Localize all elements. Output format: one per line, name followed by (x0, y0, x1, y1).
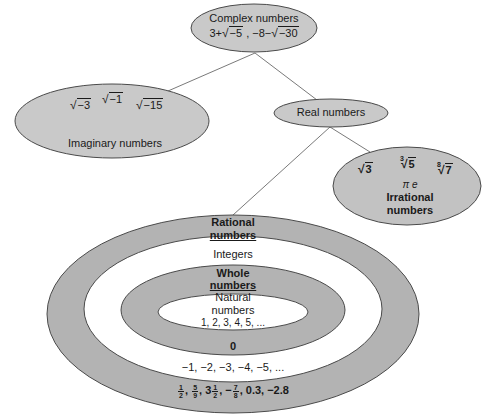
natural-numbers-title-line2: numbers (193, 304, 273, 317)
imaginary-example-3: √−15 (136, 99, 163, 113)
irrational-example-1: √3 (358, 163, 373, 177)
fraction-denominator: 9 (193, 392, 197, 399)
connector-complex-real (255, 53, 317, 100)
imaginary-example-2-radicand: −1 (109, 92, 124, 105)
fraction: 12 (178, 384, 184, 399)
radical-sign-icon: √−3 (70, 99, 91, 113)
negative-sign: − (225, 384, 231, 396)
radical-sign-icon: √−30 (271, 27, 298, 41)
whole-numbers-title-line1: Whole (193, 267, 273, 280)
complex-numbers-title: Complex numbers (204, 12, 304, 25)
irrational-numbers-title-line1: Irrational (370, 191, 450, 204)
complex-example-2-prefix: −8− (252, 27, 271, 39)
radical-sign-icon: √−5 (222, 27, 243, 41)
real-numbers-title: Real numbers (281, 106, 381, 119)
rational-numbers-examples: 12, 59, 312, −78, 0.3, −2.8 (163, 384, 303, 399)
rational-numbers-title-line1: Rational (193, 216, 273, 229)
fraction: 59 (192, 384, 198, 399)
fraction-denominator: 2 (213, 392, 217, 399)
natural-numbers-examples: 1, 2, 3, 4, 5, ... (183, 317, 283, 329)
irrational-example-2: 3√5 (400, 155, 416, 172)
integers-examples: −1, −2, −3, −4, −5, ... (168, 361, 298, 374)
fraction-numerator: 1 (178, 384, 184, 392)
irrational-example-1-radicand: 3 (365, 162, 373, 175)
imaginary-example-3-radicand: −15 (143, 98, 164, 111)
natural-numbers-title-line1: Natural (193, 291, 273, 304)
fraction: 12 (212, 384, 218, 399)
fraction-numerator: 1 (212, 384, 218, 392)
connector-real-irrational (330, 127, 370, 152)
fraction-denominator: 8 (234, 392, 238, 399)
irrational-example-2-radicand: 5 (408, 157, 416, 170)
connector-real-rational (233, 127, 330, 215)
fraction-numerator: 5 (192, 384, 198, 392)
complex-example-1-prefix: 3+ (209, 27, 222, 39)
radical-sign-icon: 8√7 (437, 161, 453, 178)
rational-numbers-title-line2: numbers (193, 229, 273, 242)
rational-decimal-examples: 0.3, −2.8 (246, 384, 289, 396)
fraction-numerator: 7 (233, 384, 239, 392)
imaginary-example-1: √−3 (70, 99, 91, 113)
whole-numbers-examples: 0 (213, 340, 253, 353)
complex-numbers-examples: 3+√−5 , −8−√−30 (196, 27, 312, 41)
complex-example-1-radicand: −5 (229, 26, 244, 39)
irrational-constants: π e (390, 179, 430, 191)
mixed-number-whole: 3 (205, 384, 211, 396)
whole-numbers-title-line2: numbers (193, 279, 273, 292)
radical-sign-icon: √−15 (136, 99, 163, 113)
complex-example-2-radicand: −30 (278, 26, 299, 39)
radical-sign-icon: √3 (358, 163, 373, 177)
fraction: 78 (233, 384, 239, 399)
connector-complex-imaginary (168, 53, 255, 91)
fraction-denominator: 2 (179, 392, 183, 399)
integers-title: Integers (193, 248, 273, 261)
irrational-example-3: 8√7 (437, 161, 453, 178)
imaginary-example-2: √−1 (102, 93, 123, 107)
irrational-numbers-title-line2: numbers (370, 204, 450, 217)
irrational-example-3-radicand: 7 (445, 163, 453, 176)
imaginary-numbers-title: Imaginary numbers (50, 137, 180, 150)
complex-example-1-suffix: , (243, 27, 249, 39)
imaginary-example-1-radicand: −3 (77, 98, 92, 111)
radical-sign-icon: √−1 (102, 93, 123, 107)
radical-sign-icon: 3√5 (400, 155, 416, 172)
